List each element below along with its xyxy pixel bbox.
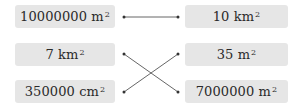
left-dot-3[interactable] <box>123 91 126 94</box>
left-dot-2[interactable] <box>123 53 126 56</box>
right-box-2-unit: m <box>238 47 250 62</box>
left-box-3-exponent: 2 <box>100 85 105 94</box>
right-box-3-unit: m <box>259 84 271 99</box>
right-box-2[interactable]: 35 m2 <box>185 43 288 66</box>
right-dot-1[interactable] <box>177 16 180 19</box>
right-box-2-value: 35 <box>217 47 234 62</box>
right-dot-2[interactable] <box>177 53 180 56</box>
right-box-3[interactable]: 7000000 m2 <box>185 80 288 103</box>
left-box-3-unit: cm <box>79 84 99 99</box>
left-box-1-unit: m <box>91 9 103 24</box>
left-dot-1[interactable] <box>123 16 126 19</box>
left-box-3-value: 350000 <box>25 84 75 99</box>
right-box-3-exponent: 2 <box>272 85 277 94</box>
left-box-1-exponent: 2 <box>105 10 110 19</box>
left-box-2-unit: km <box>58 47 78 62</box>
connection-line-2 <box>124 54 178 92</box>
connection-line-3 <box>124 54 178 92</box>
left-box-2-value: 7 <box>45 47 53 62</box>
right-box-1[interactable]: 10 km2 <box>185 5 288 28</box>
right-box-2-exponent: 2 <box>251 48 256 57</box>
right-box-1-value: 10 <box>213 9 230 24</box>
right-box-1-exponent: 2 <box>255 10 260 19</box>
left-box-2-exponent: 2 <box>79 48 84 57</box>
right-dot-3[interactable] <box>177 91 180 94</box>
left-box-3[interactable]: 350000 cm2 <box>15 80 115 103</box>
left-box-1[interactable]: 10000000 m2 <box>15 5 115 28</box>
right-box-3-value: 7000000 <box>196 84 255 99</box>
right-box-1-unit: km <box>234 9 254 24</box>
left-box-1-value: 10000000 <box>20 9 87 24</box>
left-box-2[interactable]: 7 km2 <box>15 43 115 66</box>
